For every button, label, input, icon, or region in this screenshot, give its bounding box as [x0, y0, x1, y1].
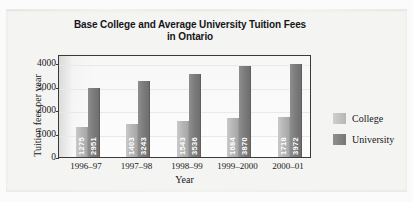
bar-value-label: 3536: [189, 137, 200, 155]
y-tick-label: 2000: [22, 105, 56, 115]
y-tick-mark: [56, 88, 59, 89]
plot-area: 1275295114033243154335361684387017183972: [58, 55, 311, 158]
scan-edge-top: [6, 9, 407, 11]
bar-university[interactable]: 3243: [138, 81, 150, 157]
bar-value-label: 1684: [227, 137, 238, 155]
y-tick-label: 4000: [22, 58, 56, 68]
legend-label-college: College: [352, 113, 383, 124]
bar-value-label: 2951: [88, 137, 99, 155]
legend-item-college[interactable]: College: [333, 110, 394, 127]
bar-value-label: 1275: [76, 137, 87, 155]
bar-group: 12752951: [76, 55, 100, 157]
scan-edge-bottom: [6, 190, 407, 192]
bar-group: 15433536: [177, 55, 201, 157]
bar-college[interactable]: 1684: [227, 118, 239, 157]
bar-value-label: 3243: [138, 137, 149, 155]
y-tick-mark: [56, 135, 59, 136]
bar-university[interactable]: 2951: [88, 88, 100, 157]
chart-legend: College University: [333, 110, 394, 152]
y-tick-label: 3000: [22, 82, 56, 92]
legend-item-university[interactable]: University: [333, 131, 394, 148]
bar-group: 14033243: [126, 55, 150, 157]
chart-title-line-2: in Ontario: [40, 31, 340, 43]
legend-swatch-college-icon: [333, 113, 346, 124]
y-tick-mark: [56, 158, 59, 159]
bar-college[interactable]: 1543: [177, 121, 189, 157]
chart-title: Base College and Average University Tuit…: [40, 19, 340, 43]
bar-college[interactable]: 1718: [278, 117, 290, 157]
bar-university[interactable]: 3972: [290, 64, 302, 157]
plot-inner: 1275295114033243154335361684387017183972: [59, 56, 310, 157]
y-tick-label: 1000: [22, 129, 56, 139]
bar-college[interactable]: 1403: [126, 124, 138, 157]
legend-swatch-university-icon: [333, 134, 346, 145]
bar-value-label: 1403: [126, 137, 137, 155]
chart-page: Base College and Average University Tuit…: [0, 0, 413, 202]
bar-university[interactable]: 3870: [239, 66, 251, 157]
bar-university[interactable]: 3536: [189, 74, 201, 157]
y-axis-ticks: 01000200030004000: [18, 55, 56, 158]
bar-value-label: 3972: [290, 137, 301, 155]
x-tick-label: 2000–01: [258, 161, 318, 171]
chart-title-line-1: Base College and Average University Tuit…: [40, 19, 340, 31]
bar-value-label: 3870: [239, 137, 250, 155]
y-tick-mark: [56, 64, 59, 65]
y-tick-label: 0: [22, 152, 56, 162]
x-axis-label: Year: [58, 174, 311, 185]
bar-value-label: 1718: [278, 137, 289, 155]
y-tick-mark: [56, 111, 59, 112]
bar-value-label: 1543: [177, 137, 188, 155]
legend-label-university: University: [352, 134, 394, 145]
bar-college[interactable]: 1275: [76, 127, 88, 157]
bar-group: 16843870: [227, 55, 251, 157]
bar-group: 17183972: [278, 55, 302, 157]
